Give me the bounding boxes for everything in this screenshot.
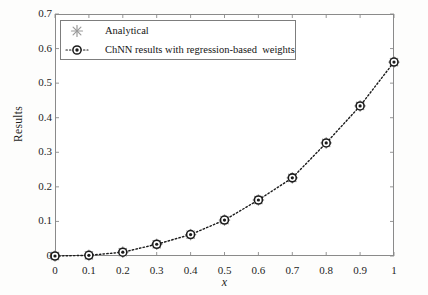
legend-entry-analytical: Analytical [61, 21, 295, 41]
legend-label-analytical: Analytical [105, 26, 149, 37]
y-tick-label-text: 0.2 [18, 181, 52, 192]
legend-label-chnn: ChNN results with regression-based weigh… [105, 45, 295, 56]
legend-entry-chnn: ChNN results with regression-based weigh… [61, 40, 295, 60]
figure-page: 00.10.20.30.40.50.60.7 00.10.20.30.40.50… [0, 0, 428, 295]
y-tick-label-text: 0.6 [18, 43, 52, 54]
y-axis-title: Results [12, 89, 24, 159]
chart-legend: Analytical ChNN results with regression-… [60, 20, 296, 60]
chart-figure: 00.10.20.30.40.50.60.7 00.10.20.30.40.50… [0, 0, 428, 295]
asterisk-marker-icon [61, 21, 105, 41]
y-tick-label-text: 0.5 [18, 77, 52, 88]
y-tick-label-text: 0.1 [18, 215, 52, 226]
data-series-group [50, 57, 399, 261]
y-tick-label-text: 0.7 [18, 8, 52, 19]
x-axis-title: x [55, 275, 394, 290]
circle-dotted-marker-icon [61, 40, 105, 60]
